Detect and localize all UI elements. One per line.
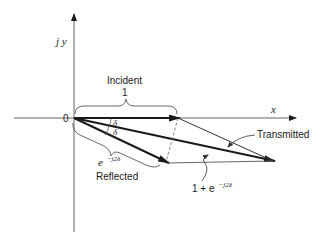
sum-leader	[202, 155, 208, 181]
reflected-expression: e −j2δ	[98, 152, 121, 169]
incident-label: Incident	[107, 75, 142, 86]
angle-label-2: δ	[113, 127, 118, 137]
transmitted-leader	[228, 135, 255, 147]
angle-arc-1	[109, 118, 111, 126]
incident-brace	[75, 99, 177, 114]
incident-magnitude-label: 1	[122, 87, 128, 98]
reflected-label: Reflected	[96, 171, 138, 182]
x-axis-label: x	[270, 103, 276, 115]
reflected-vector	[74, 118, 169, 163]
y-axis-label: j y	[54, 35, 67, 47]
parallelogram-side-bottom	[166, 161, 273, 163]
sum-expression: 1 + e −j2δ	[192, 178, 233, 195]
origin-label: 0	[63, 113, 69, 124]
transmitted-label: Transmitted	[257, 129, 309, 140]
phasor-diagram: x j y 0 Incident 1 δ δ e −j2δ Reflected …	[0, 0, 323, 245]
